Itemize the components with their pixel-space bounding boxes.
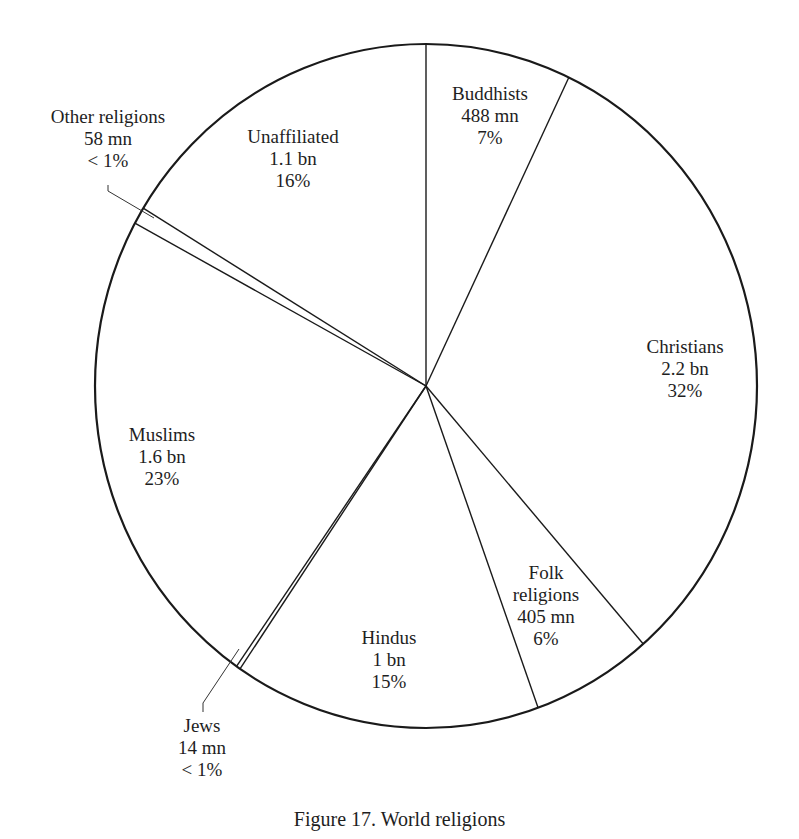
label-other-religions: Other religions 58 mn < 1% — [51, 106, 166, 172]
label-hindus: Hindus 1 bn 15% — [362, 627, 417, 693]
label-muslims: Muslims 1.6 bn 23% — [129, 424, 196, 490]
slice-percent: < 1% — [51, 150, 166, 172]
slice-percent: 16% — [247, 170, 338, 192]
label-jews: Jews 14 mn < 1% — [178, 715, 226, 781]
slice-percent: 6% — [513, 628, 580, 650]
slice-name: Christians — [646, 336, 723, 358]
slice-percent: 32% — [646, 380, 723, 402]
slice-count: 2.2 bn — [646, 358, 723, 380]
slice-name: Unaffiliated — [247, 126, 338, 148]
slice-percent: 15% — [362, 671, 417, 693]
slice-count: 58 mn — [51, 128, 166, 150]
slice-name-2: religions — [513, 584, 580, 606]
label-buddhists: Buddhists 488 mn 7% — [452, 83, 528, 149]
slice-name: Folk — [513, 562, 580, 584]
slice-percent: 7% — [452, 127, 528, 149]
slice-name: Muslims — [129, 424, 196, 446]
jews-leader-line — [203, 649, 239, 712]
slice-divider — [237, 386, 427, 666]
label-christians: Christians 2.2 bn 32% — [646, 336, 723, 402]
slice-name: Jews — [178, 715, 226, 737]
label-folk-religions: Folk religions 405 mn 6% — [513, 562, 580, 650]
slice-count: 1 bn — [362, 649, 417, 671]
slice-count: 405 mn — [513, 606, 580, 628]
slice-name: Buddhists — [452, 83, 528, 105]
slice-divider — [426, 386, 538, 708]
slice-name: Other religions — [51, 106, 166, 128]
slice-count: 488 mn — [452, 105, 528, 127]
slice-divider — [135, 223, 426, 386]
slice-name: Hindus — [362, 627, 417, 649]
slice-count: 1.1 bn — [247, 148, 338, 170]
slice-percent: < 1% — [178, 759, 226, 781]
slice-count: 14 mn — [178, 737, 226, 759]
label-unaffiliated: Unaffiliated 1.1 bn 16% — [247, 126, 338, 192]
slice-percent: 23% — [129, 468, 196, 490]
slice-count: 1.6 bn — [129, 446, 196, 468]
figure-caption: Figure 17. World religions — [0, 808, 799, 831]
slice-divider — [143, 208, 426, 386]
